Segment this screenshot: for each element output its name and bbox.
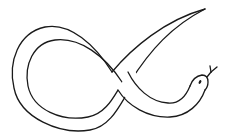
snake-neck — [118, 62, 205, 117]
snake-illustration: Line drawing of a snake coiled into an a… — [0, 0, 229, 139]
snake-loop — [12, 26, 128, 131]
snake-tail — [112, 9, 205, 82]
snake-head — [190, 75, 208, 90]
snake-eye-icon — [198, 80, 202, 85]
snake-tongue — [207, 66, 217, 77]
